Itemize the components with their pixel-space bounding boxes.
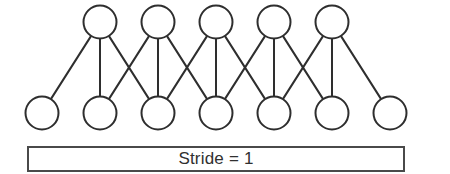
input-node-3 xyxy=(200,97,233,130)
input-node-2 xyxy=(142,97,175,130)
output-nodes-group xyxy=(84,6,349,39)
input-node-6 xyxy=(374,97,407,130)
input-nodes-group xyxy=(26,97,407,130)
edges-group xyxy=(51,36,381,99)
input-node-5 xyxy=(316,97,349,130)
output-node-3 xyxy=(258,6,291,39)
output-node-2 xyxy=(200,6,233,39)
input-node-4 xyxy=(258,97,291,130)
stride-label-text: Stride = 1 xyxy=(178,149,253,169)
output-node-4 xyxy=(316,6,349,39)
connection-edge xyxy=(51,36,91,99)
input-node-1 xyxy=(84,97,117,130)
stride-label-box: Stride = 1 xyxy=(27,146,405,172)
input-node-0 xyxy=(26,97,59,130)
diagram-root: Stride = 1 xyxy=(0,0,450,174)
output-node-0 xyxy=(84,6,117,39)
connection-edge xyxy=(341,36,381,99)
network-diagram xyxy=(0,0,450,140)
output-node-1 xyxy=(142,6,175,39)
